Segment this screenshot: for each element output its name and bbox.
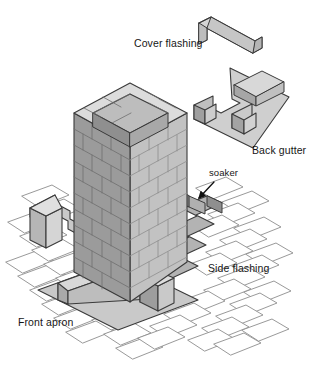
label-soaker: soaker	[209, 168, 238, 178]
chimney-flashing-diagram: Cover flashing Back gutter soaker Side f…	[0, 0, 323, 368]
back-gutter	[194, 68, 289, 148]
cover-flashing	[199, 17, 262, 53]
label-front-apron: Front apron	[18, 317, 73, 328]
label-back-gutter: Back gutter	[252, 145, 306, 156]
diagram-canvas	[0, 0, 323, 368]
chimney-stack	[74, 83, 187, 302]
label-side-flashing: Side flashing	[208, 263, 269, 274]
label-cover-flashing: Cover flashing	[134, 38, 203, 49]
